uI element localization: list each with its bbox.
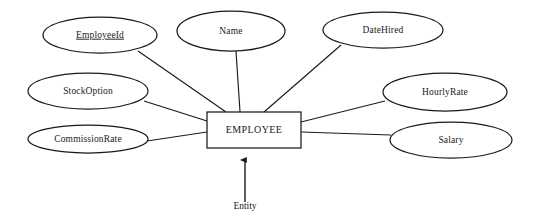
er-diagram-svg: EmployeeIdNameDateHiredStockOptionCommis…: [0, 0, 534, 223]
attribute-node[interactable]: StockOption: [28, 73, 148, 109]
entity-node-employee[interactable]: EMPLOYEE: [207, 112, 301, 148]
attribute-node[interactable]: HourlyRate: [383, 73, 507, 111]
attribute-node[interactable]: Salary: [390, 122, 512, 158]
attribute-node[interactable]: DateHired: [323, 12, 443, 48]
entity-label: EMPLOYEE: [226, 124, 283, 135]
entity-callout: Entity: [233, 160, 256, 211]
connector-line: [301, 101, 385, 122]
attribute-label: StockOption: [63, 86, 113, 96]
entity-callout-label: Entity: [233, 201, 256, 211]
attribute-label-primary-key: EmployeeId: [76, 30, 124, 40]
attribute-node[interactable]: EmployeeId: [43, 17, 157, 53]
connector-line: [144, 101, 207, 121]
attribute-label: CommissionRate: [54, 134, 122, 144]
connector-line: [264, 45, 341, 112]
er-diagram-canvas: EmployeeIdNameDateHiredStockOptionCommis…: [0, 0, 534, 223]
attribute-label: Name: [219, 26, 242, 36]
attribute-label: DateHired: [363, 25, 404, 35]
attribute-node[interactable]: CommissionRate: [28, 125, 148, 153]
connector-line: [147, 132, 207, 141]
attribute-label: HourlyRate: [422, 87, 468, 97]
connector-line: [301, 132, 391, 135]
attribute-node[interactable]: Name: [177, 11, 285, 51]
attribute-label: Salary: [438, 135, 463, 145]
connector-line: [236, 51, 240, 112]
